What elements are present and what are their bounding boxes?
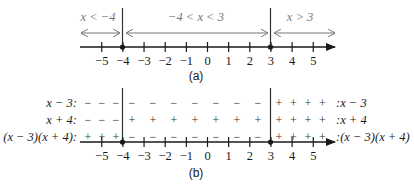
tick-label: 0	[204, 149, 210, 163]
tick-label: −3	[137, 149, 150, 163]
plus-sign: +	[213, 113, 220, 127]
tick-label: −1	[180, 54, 193, 68]
minus-sign: −	[85, 96, 92, 110]
minus-sign: −	[85, 113, 92, 127]
tick-label: 3	[268, 149, 274, 163]
row-label-left: x − 3:	[45, 96, 77, 110]
tick-label: 5	[310, 54, 316, 68]
tick-label: −5	[95, 54, 108, 68]
tick-label: −4	[116, 54, 130, 68]
minus-sign: −	[234, 96, 241, 110]
tick-label: 2	[247, 149, 253, 163]
tick-label: −5	[95, 149, 108, 163]
tick-label: 0	[204, 54, 210, 68]
interval-label-left: x < −4	[80, 10, 116, 24]
plus-sign: +	[290, 96, 297, 110]
minus-sign: −	[171, 96, 178, 110]
tick-label: −4	[116, 149, 130, 163]
row-label-left: (x − 3)(x + 4):	[3, 130, 77, 144]
minus-sign: −	[255, 96, 262, 110]
tick-label: 4	[289, 54, 296, 68]
plus-sign: +	[276, 96, 283, 110]
interval-label-middle: −4 < x < 3	[168, 10, 224, 24]
tick-label: −1	[180, 149, 193, 163]
interval-label-right: x > 3	[286, 10, 313, 24]
plus-sign: +	[319, 96, 326, 110]
part-a: x < −4 −4 < x < 3 x > 3 −5−4−3−2−1012345…	[80, 8, 335, 83]
minus-sign: −	[213, 96, 220, 110]
plus-sign: +	[305, 96, 312, 110]
tick-label: −2	[159, 149, 172, 163]
minus-sign: −	[150, 96, 157, 110]
point-b-3	[268, 139, 273, 144]
minus-sign: −	[99, 96, 106, 110]
plus-sign: +	[319, 113, 326, 127]
minus-sign: −	[192, 96, 199, 110]
row-label-right: :x − 3	[336, 96, 367, 110]
minus-sign: −	[129, 96, 136, 110]
tick-label: 2	[247, 54, 253, 68]
sign-chart-figure: x < −4 −4 < x < 3 x > 3 −5−4−3−2−1012345…	[0, 0, 414, 184]
axis-ticks: −5−4−3−2−1012345	[95, 42, 316, 68]
point-minus-4	[120, 44, 125, 49]
plus-sign: +	[234, 113, 241, 127]
sign-rows: x − 3:−−−−−−−−−−++++:x − 3x + 4:−−−+++++…	[3, 96, 410, 144]
row-label-right: :x + 4	[336, 113, 367, 127]
caption-b: (b)	[189, 166, 204, 180]
tick-label: 4	[289, 149, 296, 163]
plus-sign: +	[276, 113, 283, 127]
plus-sign: +	[255, 113, 262, 127]
tick-label: 1	[226, 54, 232, 68]
point-b-minus-4	[120, 139, 125, 144]
tick-label: 5	[310, 149, 316, 163]
tick-label: −3	[137, 54, 150, 68]
tick-label: 1	[226, 149, 232, 163]
caption-a: (a)	[189, 69, 204, 83]
minus-sign: −	[113, 113, 120, 127]
tick-label: −2	[159, 54, 172, 68]
plus-sign: +	[129, 113, 136, 127]
plus-sign: +	[192, 113, 199, 127]
plus-sign: +	[171, 113, 178, 127]
point-3	[268, 44, 273, 49]
plus-sign: +	[290, 113, 297, 127]
row-label-left: x + 4:	[45, 113, 77, 127]
minus-sign: −	[99, 113, 106, 127]
part-b: x − 3:−−−−−−−−−−++++:x − 3x + 4:−−−+++++…	[3, 88, 410, 180]
tick-label: 3	[268, 54, 274, 68]
plus-sign: +	[150, 113, 157, 127]
plus-sign: +	[305, 113, 312, 127]
minus-sign: −	[113, 96, 120, 110]
row-label-right: :(x − 3)(x + 4)	[336, 130, 410, 144]
